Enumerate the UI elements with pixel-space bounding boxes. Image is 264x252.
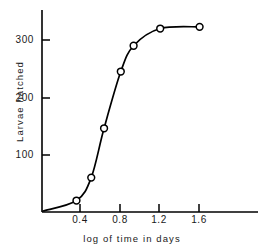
- y-tick-label-300: 300: [8, 34, 34, 45]
- chart-figure: 100 200 300 0.4 0.8 1.2 1.6 log of time …: [0, 0, 264, 252]
- x-tick-label-1-2: 1.2: [141, 214, 177, 225]
- data-point-marker: [117, 68, 124, 75]
- data-point-markers: [73, 23, 203, 204]
- y-axis-title: Larvae hatched: [14, 47, 25, 157]
- data-point-marker: [196, 23, 203, 30]
- x-tick-label-0-8: 0.8: [102, 214, 138, 225]
- x-axis-title: log of time in days: [0, 233, 264, 244]
- x-tick-label-1-6: 1.6: [181, 214, 217, 225]
- data-point-marker: [101, 125, 108, 132]
- data-point-marker: [88, 174, 95, 181]
- data-series-line: [43, 27, 200, 211]
- data-point-marker: [130, 42, 137, 49]
- data-point-marker: [157, 25, 164, 32]
- data-point-marker: [73, 197, 80, 204]
- x-tick-label-0-4: 0.4: [62, 214, 98, 225]
